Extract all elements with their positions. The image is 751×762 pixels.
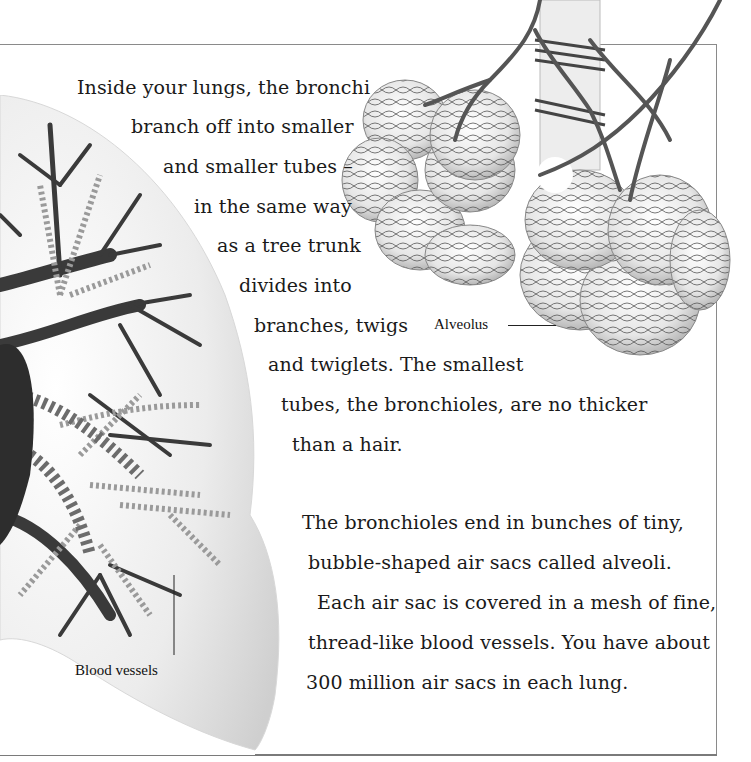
blood-vessels-label: Blood vessels	[75, 662, 158, 679]
lung-illustration	[0, 95, 300, 755]
alveolus-leader-line	[508, 325, 556, 326]
paragraph-1-line-10: than a hair.	[292, 433, 403, 455]
paragraph-1-line-6: divides into	[239, 274, 352, 296]
paragraph-2-line-4: thread-like blood vessels. You have abou…	[308, 631, 710, 653]
paragraph-1-line-5: as a tree trunk	[217, 234, 361, 256]
paragraph-1-line-3: and smaller tubes –	[163, 155, 353, 177]
paragraph-1-line-7: branches, twigs	[254, 314, 408, 336]
paragraph-1-line-4: in the same way	[194, 195, 352, 217]
paragraph-1-line-1: Inside your lungs, the bronchi	[77, 76, 370, 98]
paragraph-2-line-1: The bronchioles end in bunches of tiny,	[302, 511, 684, 533]
paragraph-2-line-5: 300 million air sacs in each lung.	[306, 671, 628, 693]
alveolus-label: Alveolus	[434, 316, 488, 333]
paragraph-1-line-2: branch off into smaller	[131, 115, 354, 137]
paragraph-1-line-8: and twiglets. The smallest	[268, 353, 523, 375]
paragraph-2-line-2: bubble-shaped air sacs called alveoli.	[308, 551, 672, 573]
paragraph-1-line-9: tubes, the bronchioles, are no thicker	[281, 393, 647, 415]
paragraph-2-line-3: Each air sac is covered in a mesh of fin…	[317, 591, 716, 613]
